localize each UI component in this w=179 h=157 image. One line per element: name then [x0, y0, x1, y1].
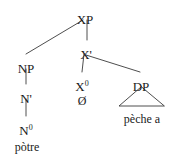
node-x-zero: X0 [75, 80, 88, 93]
terminal-dp-phrase-text: pèche a [124, 112, 160, 126]
node-np: NP [18, 62, 35, 75]
node-dp: DP [133, 80, 150, 93]
node-x-bar: X' [80, 48, 92, 61]
node-np-label: NP [18, 61, 35, 76]
node-x-zero-label: X [75, 79, 84, 94]
node-n-zero-label: N [19, 123, 28, 138]
node-xp-label: XP [77, 12, 94, 27]
edge-xbar-to-dp [86, 55, 140, 72]
node-n-bar-label: N' [20, 91, 32, 106]
node-n-zero: N0 [19, 124, 32, 137]
node-x-bar-label: X' [80, 47, 92, 62]
node-x-zero-superscript: 0 [85, 79, 89, 88]
node-dp-label: DP [133, 79, 150, 94]
terminal-np-word-text: pòtre [15, 140, 40, 154]
node-n-zero-superscript: 0 [29, 123, 33, 132]
node-n-bar: N' [20, 92, 32, 105]
node-xp: XP [77, 13, 94, 26]
node-null-head: Ø [78, 95, 87, 107]
terminal-np-word: pòtre [15, 141, 40, 153]
terminal-dp-phrase: pèche a [124, 113, 160, 125]
syntax-tree-figure: XP NP N' N0 pòtre X' X0 Ø DP pèche a [0, 0, 179, 157]
node-null-head-label: Ø [78, 94, 87, 108]
edge-xp-to-np [26, 20, 83, 54]
